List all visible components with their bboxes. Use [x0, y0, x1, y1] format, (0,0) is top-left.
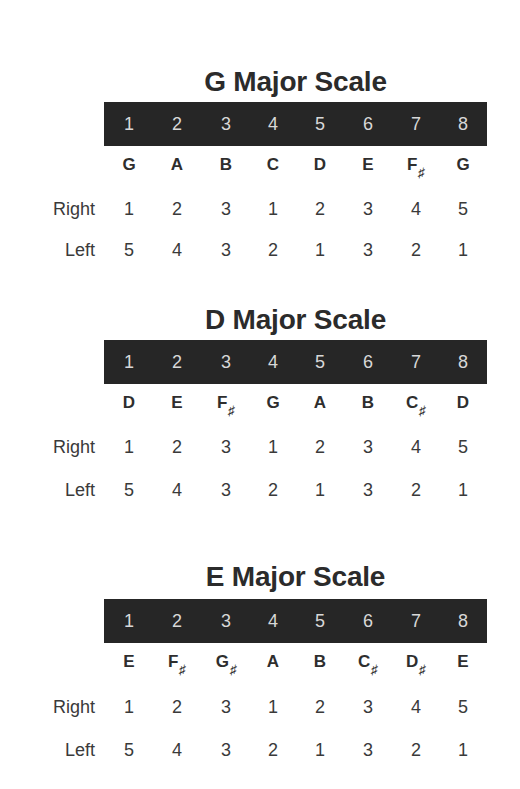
- scale-degree: 2: [162, 599, 192, 643]
- scale-degree-bar: 12345678: [104, 102, 487, 146]
- scale-degree-bar: 12345678: [104, 599, 487, 643]
- note-row: EF♯G♯ABC♯D♯E: [0, 650, 520, 674]
- scale-degree: 7: [401, 599, 431, 643]
- note-letter: F: [407, 155, 417, 174]
- note-letter: B: [314, 652, 326, 671]
- finger-number: 2: [396, 238, 436, 262]
- scale-title: G Major Scale: [104, 67, 487, 97]
- finger-number: 2: [253, 478, 293, 502]
- note-letter: D: [406, 652, 418, 671]
- sharp-icon: ♯: [418, 658, 428, 682]
- finger-number: 1: [443, 738, 483, 762]
- finger-number: 1: [109, 197, 149, 221]
- finger-number: 5: [443, 197, 483, 221]
- note-name: C♯: [396, 391, 436, 416]
- scale-degree: 3: [211, 340, 241, 384]
- finger-number: 1: [253, 435, 293, 459]
- note-letter: G: [266, 393, 279, 412]
- note-letter: C: [406, 393, 418, 412]
- scale-degree-bar: 12345678: [104, 340, 487, 384]
- finger-number: 4: [396, 435, 436, 459]
- finger-number: 2: [300, 435, 340, 459]
- note-name: A: [157, 153, 197, 177]
- note-name: B: [348, 391, 388, 415]
- finger-number: 4: [157, 478, 197, 502]
- finger-number: 1: [443, 478, 483, 502]
- scale-degree: 8: [448, 599, 478, 643]
- sharp-icon: ♯: [417, 161, 427, 185]
- scale-degree: 6: [353, 102, 383, 146]
- finger-number: 1: [109, 435, 149, 459]
- note-letter: A: [171, 155, 183, 174]
- note-name: D: [300, 153, 340, 177]
- scale-degree: 5: [305, 599, 335, 643]
- right-hand-fingering-row: Right12312345: [0, 695, 520, 719]
- note-row: DEF♯GABC♯D: [0, 391, 520, 415]
- note-letter: D: [123, 393, 135, 412]
- finger-number: 1: [253, 197, 293, 221]
- finger-number: 3: [348, 197, 388, 221]
- scale-degree: 4: [258, 340, 288, 384]
- scale-degree: 5: [305, 340, 335, 384]
- note-name: B: [300, 650, 340, 674]
- note-name: G: [253, 391, 293, 415]
- finger-number: 2: [253, 738, 293, 762]
- note-letter: G: [456, 155, 469, 174]
- note-name: E: [109, 650, 149, 674]
- note-name: A: [253, 650, 293, 674]
- finger-number: 2: [157, 435, 197, 459]
- finger-number: 2: [396, 478, 436, 502]
- right-hand-label: Right: [53, 197, 95, 221]
- scale-degree: 7: [401, 102, 431, 146]
- sharp-icon: ♯: [370, 658, 380, 682]
- note-letter: A: [267, 652, 279, 671]
- left-hand-fingering-row: Left54321321: [0, 738, 520, 762]
- note-name: F♯: [157, 650, 197, 675]
- note-name: G♯: [206, 650, 246, 675]
- note-letter: F: [168, 652, 178, 671]
- note-name: D♯: [396, 650, 436, 675]
- scale-degree: 1: [114, 599, 144, 643]
- scale-degree: 3: [211, 102, 241, 146]
- scale-degree: 4: [258, 102, 288, 146]
- note-letter: E: [123, 652, 134, 671]
- finger-number: 3: [206, 478, 246, 502]
- note-letter: E: [171, 393, 182, 412]
- finger-number: 2: [300, 695, 340, 719]
- right-hand-fingering-row: Right12312345: [0, 435, 520, 459]
- scale-degree: 8: [448, 102, 478, 146]
- finger-number: 2: [300, 197, 340, 221]
- left-hand-label: Left: [65, 238, 95, 262]
- note-name: D: [443, 391, 483, 415]
- finger-number: 2: [157, 197, 197, 221]
- finger-number: 5: [109, 478, 149, 502]
- finger-number: 4: [157, 738, 197, 762]
- scale-degree: 8: [448, 340, 478, 384]
- finger-number: 5: [443, 695, 483, 719]
- scale-degree: 2: [162, 340, 192, 384]
- scale-degree: 7: [401, 340, 431, 384]
- scale-degree: 6: [353, 599, 383, 643]
- note-name: E: [348, 153, 388, 177]
- finger-number: 4: [396, 695, 436, 719]
- scale-degree: 2: [162, 102, 192, 146]
- sharp-icon: ♯: [227, 399, 237, 423]
- scale-title: D Major Scale: [104, 305, 487, 335]
- finger-number: 3: [348, 478, 388, 502]
- right-hand-label: Right: [53, 435, 95, 459]
- sharp-icon: ♯: [418, 399, 428, 423]
- scale-title: E Major Scale: [104, 562, 487, 592]
- note-name: B: [206, 153, 246, 177]
- finger-number: 2: [157, 695, 197, 719]
- note-letter: A: [314, 393, 326, 412]
- finger-number: 3: [348, 738, 388, 762]
- finger-number: 5: [109, 238, 149, 262]
- finger-number: 1: [300, 238, 340, 262]
- finger-number: 3: [348, 238, 388, 262]
- note-name: E: [443, 650, 483, 674]
- note-letter: B: [362, 393, 374, 412]
- note-letter: E: [457, 652, 468, 671]
- scale-degree: 4: [258, 599, 288, 643]
- note-name: C♯: [348, 650, 388, 675]
- note-name: D: [109, 391, 149, 415]
